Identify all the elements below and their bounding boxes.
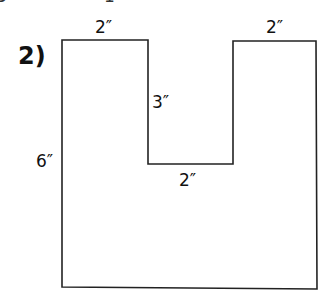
top-right-width-label: 2″ bbox=[266, 19, 283, 36]
notch-depth-label: 3″ bbox=[152, 94, 169, 111]
left-height-label: 6″ bbox=[36, 153, 53, 170]
top-left-width-label: 2″ bbox=[95, 19, 112, 36]
u-shape-figure bbox=[0, 0, 328, 296]
notch-width-label: 2″ bbox=[179, 172, 196, 189]
u-shape-outline bbox=[62, 40, 317, 289]
